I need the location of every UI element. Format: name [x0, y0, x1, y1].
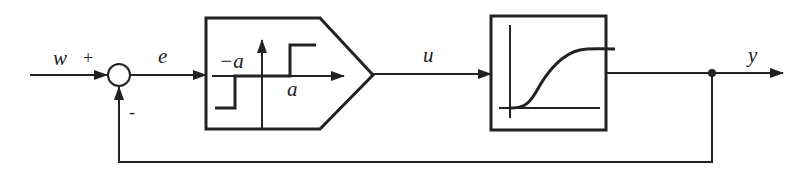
- summing-junction: [108, 64, 130, 86]
- label-w: w: [53, 46, 67, 70]
- relay-block: [206, 18, 373, 129]
- plant-block: [491, 16, 615, 130]
- plus-sign: +: [83, 48, 93, 68]
- label-y: y: [746, 43, 758, 67]
- label-neg-a: −a: [219, 49, 244, 73]
- minus-sign: -: [129, 102, 135, 122]
- label-u: u: [423, 43, 434, 67]
- label-e: e: [158, 44, 167, 68]
- block-diagram: w + - e −a a u y: [0, 0, 805, 174]
- label-pos-a: a: [287, 77, 298, 101]
